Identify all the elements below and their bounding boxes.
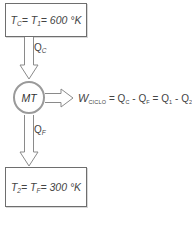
heat-out-arrow — [20, 115, 38, 166]
engine-label: MT — [21, 92, 36, 104]
q-sub: F — [42, 129, 46, 136]
work-arrow — [45, 89, 73, 107]
q-sub: C — [42, 47, 47, 54]
cold-reservoir-box: T2= TF= 300 °K — [5, 167, 87, 207]
engine-circle: MT — [13, 81, 45, 114]
eq-part4: - Q — [172, 93, 189, 104]
cold-temp-value: = 300 °K — [40, 181, 81, 193]
eq-part2: - Q — [130, 93, 147, 104]
w-symbol: W — [78, 92, 88, 104]
q-symbol: Q — [34, 42, 42, 53]
heat-out-label: QF — [34, 124, 46, 136]
eq-sign: = — [21, 181, 30, 193]
heat-in-label: QC — [34, 42, 46, 54]
eq-part4-sub: 2 — [189, 99, 192, 105]
work-equation: WCICLO = QC - QF = Q1 - Q2 — [78, 92, 192, 105]
eq-part3: = Q — [150, 93, 169, 104]
cold-reservoir-label: T2= TF= 300 °K — [11, 181, 81, 194]
w-sub: CICLO — [88, 99, 106, 105]
eq-part1: = Q — [106, 93, 125, 104]
q-symbol: Q — [34, 124, 42, 135]
